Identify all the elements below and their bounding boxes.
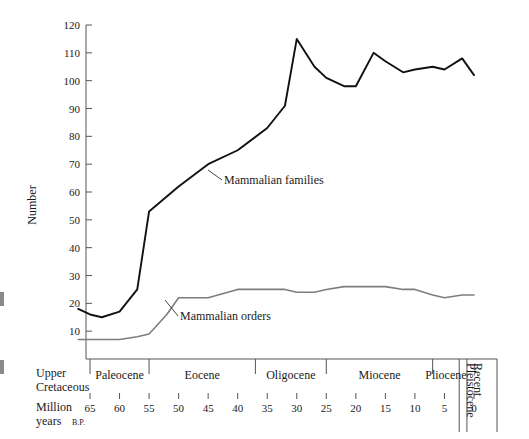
mammalian-diversity-line-chart: 102030405060708090100110120 Number Mamma…: [0, 0, 529, 439]
annotation-label-mammalian-families: Mammalian families: [224, 173, 324, 187]
epoch-label-eocene: Eocene: [185, 368, 220, 382]
epoch-label-paleocene: Paleocene: [95, 368, 144, 382]
y-tick-label: 90: [69, 103, 81, 115]
y-tick-label: 80: [69, 130, 81, 142]
chart-figure: 102030405060708090100110120 Number Mamma…: [0, 0, 529, 439]
epoch-label-pliocene: Pliocene: [425, 368, 466, 382]
data-series-group: [78, 39, 474, 340]
annotation-leader-families: [208, 170, 222, 180]
series-line-mammalian-orders: [78, 287, 474, 340]
x-tick-label: 40: [232, 402, 244, 414]
y-tick-label: 70: [69, 158, 81, 170]
y-tick-label: 20: [69, 297, 81, 309]
y-tick-label: 100: [64, 75, 81, 87]
y-tick-label: 110: [64, 47, 81, 59]
chart-axes: 102030405060708090100110120: [64, 19, 498, 359]
x-tick-label: 25: [321, 402, 333, 414]
x-axis-ticks: [90, 393, 474, 399]
y-tick-label: 40: [69, 242, 81, 254]
x-axis-title-suffix: B.P.: [72, 418, 85, 427]
x-tick-label: 0: [471, 402, 477, 414]
y-tick-label: 50: [69, 214, 81, 226]
epoch-label-recent: Recent: [471, 363, 485, 397]
x-tick-label: 35: [262, 402, 274, 414]
x-tick-label: 60: [114, 402, 126, 414]
x-tick-label: 20: [350, 402, 362, 414]
y-tick-label: 120: [64, 19, 81, 31]
x-tick-label: 45: [203, 402, 215, 414]
y-tick-label: 30: [69, 270, 81, 282]
x-tick-label: 55: [144, 402, 156, 414]
epoch-label-miocene: Miocene: [358, 368, 400, 382]
x-tick-label: 50: [173, 402, 185, 414]
scan-edge-artifact-top: [0, 292, 4, 306]
scan-edge-artifact-bottom: [0, 360, 4, 374]
x-axis-title-line2: years: [36, 414, 62, 428]
epoch-label-upper-cretaceous-line1: Upper: [36, 366, 66, 380]
y-tick-label: 60: [69, 186, 81, 198]
series-annotations: Mammalian families Mammalian orders: [165, 170, 324, 323]
x-axis-scale: 65605550454035302520151050: [85, 393, 478, 414]
x-tick-label: 10: [409, 402, 421, 414]
y-axis-title: Number: [25, 185, 39, 224]
y-axis-ticks: [86, 25, 92, 331]
x-tick-label: 65: [85, 402, 97, 414]
x-axis-title-line1: Million: [36, 400, 72, 414]
x-tick-label: 30: [291, 402, 303, 414]
annotation-label-mammalian-orders: Mammalian orders: [180, 309, 271, 323]
y-tick-label: 10: [69, 325, 81, 337]
epoch-label-upper-cretaceous-line2: Cretaceous: [36, 380, 90, 394]
y-axis-tick-labels: 102030405060708090100110120: [64, 19, 81, 337]
x-axis-tick-labels: 65605550454035302520151050: [85, 402, 478, 414]
x-tick-label: 5: [442, 402, 448, 414]
epoch-band: UpperCretaceousPaleoceneEoceneOligoceneM…: [36, 359, 497, 432]
epoch-label-oligocene: Oligocene: [266, 368, 315, 382]
x-tick-label: 15: [380, 402, 392, 414]
